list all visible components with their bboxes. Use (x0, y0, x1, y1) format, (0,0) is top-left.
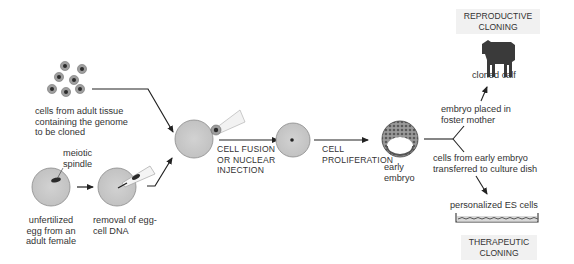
fusion-step-line-2: OR NUCLEAR (217, 155, 275, 166)
removal-dna-line-2: cell DNA (93, 226, 157, 237)
unfertilized-egg-line-3: adult female (20, 236, 82, 247)
unfertilized-egg-line-2: egg from an (20, 226, 82, 237)
arrow-foster-to-calf (481, 87, 487, 101)
early-embryo-line-1: early (384, 162, 415, 173)
foster-label: embryo placed in foster mother (441, 104, 511, 125)
culture-line-1: cells from early embryo (433, 153, 537, 164)
proliferation-line-2: PROLIFERATION (322, 155, 393, 166)
arrow-culture-to-dish (476, 176, 487, 194)
es-cells-label: personalized ES cells (450, 200, 538, 211)
removal-dna-label: removal of egg- cell DNA (93, 215, 157, 236)
therapeutic-line-2: CLONING (467, 248, 531, 259)
early-embryo-label: early embryo (384, 162, 415, 183)
fusion-step-label: CELL FUSION OR NUCLEAR INJECTION (217, 144, 275, 176)
culture-label: cells from early embryo transferred to c… (433, 153, 537, 174)
foster-line-1: embryo placed in (441, 104, 511, 115)
meiotic-spindle-line-2: spindle (63, 159, 92, 170)
foster-line-2: foster mother (441, 115, 511, 126)
reproductive-line-1: REPRODUCTIVE (462, 11, 534, 22)
therapeutic-line-1: THERAPEUTIC (467, 237, 531, 248)
reproductive-cloning-banner: REPRODUCTIVE CLONING (456, 9, 540, 34)
adult-cells-line-2: containing the genome (35, 117, 128, 128)
proliferation-step-label: CELL PROLIFERATION (322, 144, 393, 165)
adult-cells-label: cells from adult tissue containing the g… (35, 106, 128, 138)
meiotic-spindle-label: meiotic spindle (63, 148, 92, 169)
culture-dish-icon (456, 213, 538, 222)
unfertilized-egg-line-1: unfertilized (20, 215, 82, 226)
unfertilized-egg-label: unfertilized egg from an adult female (20, 215, 82, 247)
adult-cells-line-1: cells from adult tissue (35, 106, 128, 117)
fusion-step-line-1: CELL FUSION (217, 144, 275, 155)
enucleation-egg-icon (98, 166, 155, 206)
branch-connector (424, 126, 464, 152)
proliferation-line-1: CELL (322, 144, 393, 155)
removal-dna-line-1: removal of egg- (93, 215, 157, 226)
adult-cells-line-3: to be cloned (35, 127, 128, 138)
unfertilized-egg-icon (32, 168, 70, 206)
early-embryo-line-2: embryo (384, 173, 415, 184)
culture-line-2: transferred to culture dish (433, 164, 537, 175)
adult-cells-icon (47, 61, 86, 96)
fusion-step-line-3: INJECTION (217, 165, 275, 176)
therapeutic-cloning-banner: THERAPEUTIC CLONING (461, 235, 537, 260)
meiotic-spindle-line-1: meiotic (63, 148, 92, 159)
cloning-diagram: cells from adult tissue containing the g… (0, 0, 574, 264)
cloned-calf-label: cloned calf (472, 70, 516, 81)
reproductive-line-2: CLONING (462, 22, 534, 33)
reconstructed-egg-icon (276, 123, 310, 157)
